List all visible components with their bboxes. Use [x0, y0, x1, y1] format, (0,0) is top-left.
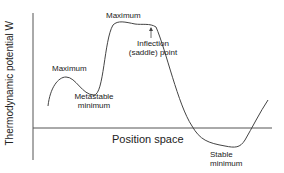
label-metastable-minimum: Metastable minimum: [72, 92, 116, 110]
arrowhead-icon: [149, 27, 153, 31]
potential-diagram: [0, 0, 284, 173]
label-stable-minimum: Stable minimum: [210, 150, 246, 168]
x-axis-label: Position space: [112, 133, 184, 145]
label-maximum-left: Maximum: [52, 64, 87, 73]
y-axis-label: Thermodynamic potential W: [4, 26, 15, 146]
label-inflection: Inflection (saddle) point: [125, 39, 181, 57]
label-maximum-top: Maximum: [106, 11, 141, 20]
